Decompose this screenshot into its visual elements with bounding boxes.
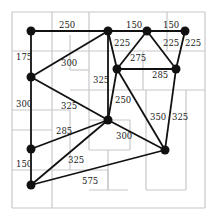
node-B	[104, 27, 113, 36]
edge-B-F	[108, 31, 117, 69]
edge-weight-label: 225	[185, 38, 201, 48]
edge-weight-label: 150	[126, 20, 142, 30]
edge-weight-label: 300	[16, 99, 32, 109]
edge-weight-label: 300	[116, 131, 132, 141]
node-D	[181, 27, 190, 36]
node-F	[113, 65, 122, 74]
edge-weight-label: 285	[56, 126, 72, 136]
node-G	[172, 65, 181, 74]
edge-weight-label: 150	[16, 159, 32, 169]
edge-weight-label: 175	[16, 52, 32, 62]
edge-weight-label: 225	[163, 38, 179, 48]
edge-weight-label: 350	[150, 112, 166, 122]
edge-D-G	[176, 31, 185, 69]
edge-weight-label: 325	[172, 112, 188, 122]
edge-C-G	[147, 31, 176, 69]
node-A	[27, 27, 36, 36]
edge-weight-label: 325	[68, 155, 84, 165]
edge-G-I	[165, 69, 176, 150]
node-E	[27, 73, 36, 82]
node-I	[161, 146, 170, 155]
node-H	[104, 116, 113, 125]
edge-weight-label: 275	[130, 53, 146, 63]
node-C	[143, 27, 152, 36]
edge-weight-label: 150	[163, 20, 179, 30]
edge-weight-label: 225	[114, 38, 130, 48]
edge-weight-label: 325	[93, 75, 109, 85]
edge-weight-label: 325	[61, 101, 77, 111]
graph-canvas: 2501501501753002253252752252252852503503…	[0, 0, 218, 221]
node-K	[27, 181, 36, 190]
edge-weight-label: 300	[61, 58, 77, 68]
edge-weight-label: 250	[59, 20, 75, 30]
node-J	[27, 145, 36, 154]
edge-weight-label: 250	[115, 95, 131, 105]
edge-weight-label: 285	[152, 70, 168, 80]
edge-weight-label: 575	[82, 176, 98, 186]
